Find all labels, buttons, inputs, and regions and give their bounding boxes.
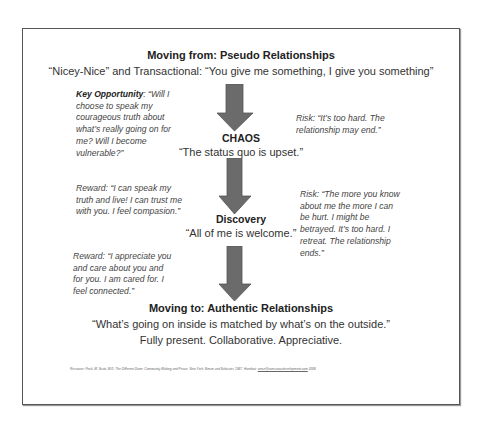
key-opportunity-label: Key Opportunity (76, 89, 143, 99)
reward-note-1: Reward: “I can speak my truth and live! … (76, 183, 184, 218)
moving-to-line2: Fully present. Collaborative. Appreciati… (0, 334, 482, 346)
stage-discovery-label: Discovery (0, 213, 482, 225)
stage-chaos-quote: “The status quo is upset.” (0, 146, 482, 158)
key-opportunity-text: : “Will I choose to speak my courageous … (76, 89, 171, 158)
moving-to-title: Moving to: Authentic Relationships (0, 302, 482, 314)
stage-chaos-label: CHAOS (0, 132, 482, 144)
down-arrow-icon (218, 246, 252, 302)
header-subtitle: “Nicey-Nice” and Transactional: “You giv… (0, 65, 482, 77)
resource-text: Resource: Peck, M. Scott, M.D. The Diffe… (70, 367, 258, 371)
down-arrow-icon (218, 158, 252, 215)
header-title: Moving from: Pseudo Relationships (0, 49, 482, 61)
risk-note-1: Risk: “It’s too hard. The relationship m… (296, 113, 396, 136)
reward-note-2: Reward: “I appreciate you and care about… (73, 251, 173, 298)
risk-note-2: Risk: “The more you know about me the mo… (300, 189, 404, 259)
moving-to-line1: “What’s going on inside is matched by wh… (0, 318, 482, 330)
stage-discovery-quote: “All of me is welcome.” (0, 227, 482, 239)
resource-citation: Resource: Peck, M. Scott, M.D. The Diffe… (70, 367, 430, 371)
key-opportunity-note: Key Opportunity: “Will I choose to speak… (76, 89, 186, 159)
resource-email-link[interactable]: vince@consciousdevelopment.com (258, 367, 308, 371)
resource-year: 2006 (308, 367, 316, 371)
down-arrow-icon (216, 84, 254, 132)
